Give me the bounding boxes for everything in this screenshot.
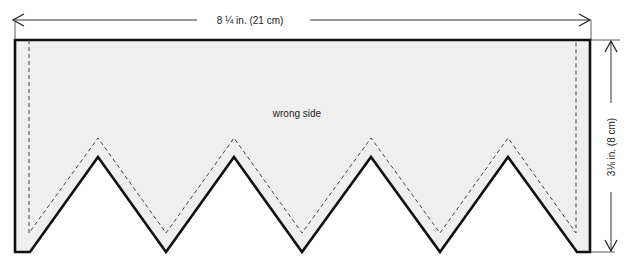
pattern-diagram: wrong side 8 ¼ in. (21 cm) 3⅛ in. (8 cm) [0,0,624,276]
piece-label: wrong side [272,108,322,119]
height-dimension: 3⅛ in. (8 cm) [591,40,620,252]
pattern-piece-outline [15,40,590,252]
width-dimension: 8 ¼ in. (21 cm) [13,14,591,40]
height-label: 3⅛ in. (8 cm) [606,118,617,176]
width-label: 8 ¼ in. (21 cm) [217,15,284,26]
